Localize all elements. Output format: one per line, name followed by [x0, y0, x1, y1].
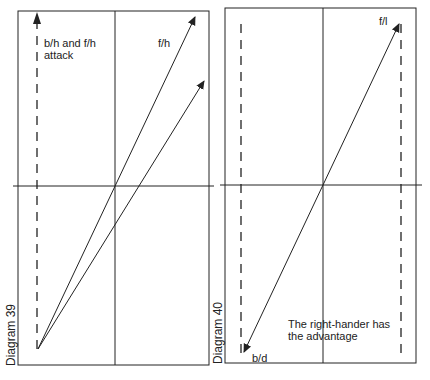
diagram-40-caption: Diagram 40	[211, 302, 225, 364]
fh-label: f/h	[158, 37, 170, 49]
arrowhead-icon	[33, 12, 41, 24]
fl-arrow	[323, 24, 399, 185]
court-frame-left	[18, 11, 209, 365]
diagram-39-caption: Diagram 39	[4, 304, 18, 366]
fh-arrow-2	[38, 81, 204, 349]
fh-arrow	[38, 17, 195, 349]
bd-label: b/d	[252, 352, 267, 364]
fl-label: f/l	[379, 15, 388, 27]
diagram-40	[220, 8, 422, 363]
attack-label: b/h and f/h attack	[44, 37, 96, 61]
diagram-39	[13, 11, 214, 365]
advantage-note: The right-hander has the advantage	[288, 318, 390, 342]
